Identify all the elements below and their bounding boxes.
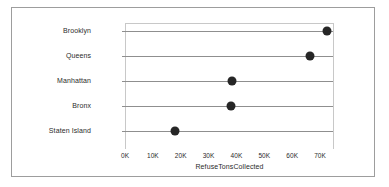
x-axis-tick-label: 60K: [286, 152, 298, 159]
data-point-marker[interactable]: [322, 26, 331, 35]
x-axis-tick-label: 20K: [175, 152, 187, 159]
data-point-marker[interactable]: [305, 51, 314, 60]
y-axis-tick-label: Manhattan: [57, 77, 91, 84]
category-rule: [122, 131, 333, 132]
data-point-marker[interactable]: [170, 127, 179, 136]
chart-figure: BrooklynQueensManhattanBronxStaten Islan…: [0, 0, 389, 187]
x-axis-tick-label: 70K: [314, 152, 326, 159]
y-axis-tick-label: Staten Island: [49, 127, 91, 134]
category-rule: [122, 31, 333, 32]
x-axis-tick-label: 10K: [147, 152, 159, 159]
y-axis-tick-label: Queens: [66, 51, 91, 58]
y-axis-tick-label: Bronx: [72, 102, 91, 109]
plot-area: [125, 23, 334, 149]
x-axis-title: RefuseTonsCollected: [125, 163, 334, 170]
figure-border: BrooklynQueensManhattanBronxStaten Islan…: [11, 7, 375, 177]
x-axis-tick-label: 40K: [231, 152, 243, 159]
data-point-marker[interactable]: [226, 102, 235, 111]
category-rule: [122, 56, 333, 57]
x-axis-tick-label: 0K: [121, 152, 129, 159]
x-axis-tick-label: 30K: [203, 152, 215, 159]
x-axis-tick-label: 50K: [258, 152, 270, 159]
y-axis-tick-label: Brooklyn: [63, 26, 91, 33]
data-point-marker[interactable]: [227, 77, 236, 86]
